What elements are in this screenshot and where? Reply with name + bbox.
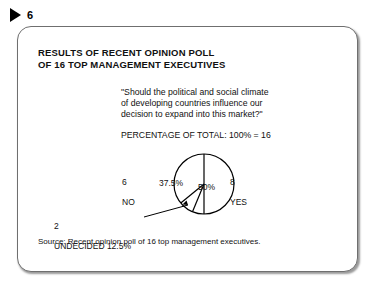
pie-label-yes: 8 YES	[230, 167, 247, 217]
source-note: Source: Recent opinion poll of 16 top ma…	[38, 237, 260, 247]
undecided-leader-line	[144, 205, 188, 217]
pie-slice-value-yes: 50%	[198, 182, 215, 192]
pie-slice-value-no: 37.5%	[159, 178, 183, 188]
slide-card: RESULTS OF RECENT OPINION POLL OF 16 TOP…	[17, 26, 358, 272]
page-title: RESULTS OF RECENT OPINION POLL OF 16 TOP…	[38, 47, 225, 70]
pie-label-no-text: NO	[122, 197, 135, 207]
pie-chart: 6 NO 8 YES 2 UNDECIDED 12.5% 37.5% 50%	[18, 139, 359, 229]
pie-label-undecided: 2 UNDECIDED 12.5%	[54, 211, 131, 261]
pie-label-no-count: 6	[122, 177, 135, 187]
poll-question-text: "Should the political and social climate…	[121, 87, 268, 120]
pie-label-undecided-count: 2	[54, 221, 131, 231]
pie-label-yes-text: YES	[230, 197, 247, 207]
page-number: 6	[27, 10, 33, 21]
play-triangle-icon	[10, 8, 21, 22]
pie-label-yes-count: 8	[230, 177, 247, 187]
page-marker: 6	[10, 7, 33, 23]
pie-label-no: 6 NO	[122, 167, 135, 217]
